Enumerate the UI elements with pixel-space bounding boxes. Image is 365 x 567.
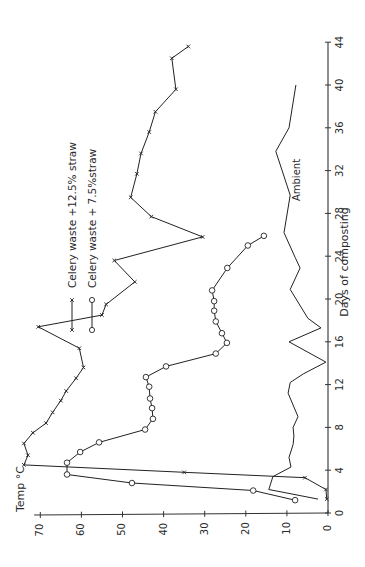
ambient-label: Ambient (291, 159, 302, 201)
x-marker-icon (133, 280, 137, 284)
circle-marker-icon (64, 460, 70, 466)
y-axis-title: Temp °C (14, 466, 27, 513)
circle-marker-icon (146, 384, 152, 390)
day-tick-label: 8 (334, 424, 345, 430)
temp-tick-label: 50 (117, 523, 128, 536)
circle-marker-icon (211, 308, 217, 314)
circle-marker-icon (209, 288, 215, 294)
circle-marker-icon (245, 243, 251, 249)
x-marker-icon (74, 376, 78, 380)
circle-marker-icon (77, 449, 83, 455)
x-marker-icon (59, 399, 63, 403)
circle-marker-icon (129, 480, 135, 486)
chart-axes: 048121620242832364044010203040506070 (34, 36, 345, 537)
series-line (269, 85, 326, 499)
temp-axis-line (34, 513, 328, 515)
circle-marker-icon (64, 472, 70, 478)
temp-tick-label: 60 (75, 523, 86, 536)
circle-marker-icon (225, 265, 231, 271)
temp-tick-label: 70 (34, 524, 45, 537)
circle-marker-icon (261, 233, 267, 239)
x-marker-icon (31, 431, 35, 435)
temperature-chart: 048121620242832364044010203040506070 Cel… (0, 0, 365, 567)
circle-marker-icon (224, 340, 230, 346)
temp-tick-label: 40 (158, 523, 169, 536)
day-tick-label: 36 (334, 121, 345, 134)
day-tick-label: 16 (334, 335, 345, 348)
circle-marker-icon (213, 351, 219, 357)
chart-legend: Celery waste +12.5% strawCelery waste + … (66, 142, 98, 333)
legend-circle-marker-icon (89, 297, 94, 302)
day-tick-label: 40 (334, 79, 345, 92)
legend-label: Celery waste + 7.5%straw (86, 148, 98, 288)
x-marker-icon (51, 411, 55, 415)
temp-tick-label: 20 (240, 522, 251, 535)
day-tick-label: 4 (334, 467, 345, 473)
x-marker-icon (64, 389, 68, 393)
circle-marker-icon (147, 396, 153, 402)
circle-marker-icon (219, 330, 225, 336)
series-ambient (269, 85, 326, 499)
circle-marker-icon (143, 374, 149, 380)
day-tick-label: 0 (334, 510, 345, 516)
circle-marker-icon (163, 364, 169, 370)
circle-marker-icon (96, 440, 102, 446)
series-celery-7-5-straw (64, 233, 298, 503)
circle-marker-icon (150, 416, 156, 422)
legend-circle-marker-icon (89, 327, 94, 332)
circle-marker-icon (292, 497, 298, 503)
chart-canvas: 048121620242832364044010203040506070 Cel… (0, 0, 365, 567)
day-tick-label: 32 (334, 164, 345, 177)
legend-label: Celery waste +12.5% straw (66, 142, 78, 288)
day-tick-label: 44 (334, 36, 345, 49)
x-marker-icon (186, 45, 190, 49)
axis-labels: AmbientDays of compostingTemp °C (14, 159, 351, 513)
series-line (67, 236, 295, 500)
temp-tick-label: 0 (322, 525, 333, 531)
temp-tick-label: 30 (199, 522, 210, 535)
x-axis-title: Days of composting (338, 207, 351, 316)
circle-marker-icon (250, 488, 256, 494)
day-tick-label: 12 (334, 378, 345, 391)
temp-tick-label: 10 (281, 522, 292, 535)
x-marker-icon (44, 421, 48, 425)
circle-marker-icon (142, 427, 148, 433)
circle-marker-icon (213, 319, 219, 325)
circle-marker-icon (211, 298, 217, 304)
circle-marker-icon (149, 405, 155, 411)
